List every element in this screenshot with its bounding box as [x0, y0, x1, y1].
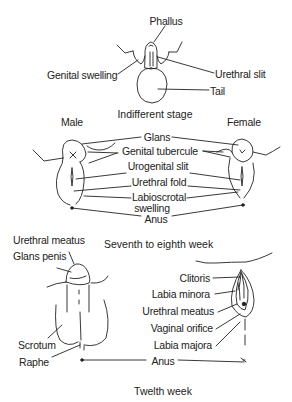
label-labia-minora: Labia minora — [152, 288, 210, 300]
label-labia-majora: Labia majora — [154, 339, 212, 351]
caption-seventh-eighth-week: Seventh to eighth week — [104, 238, 213, 250]
label-urethral-meatus-male: Urethral meatus — [13, 234, 85, 246]
caption-indifferent-stage: Indifferent stage — [117, 108, 192, 120]
label-tail: Tail — [210, 85, 225, 97]
label-urethral-fold: Urethral fold — [132, 176, 187, 188]
male-12-week-drawing — [47, 252, 108, 361]
male-7-8-week-drawing — [33, 140, 115, 209]
indifferent-stage-drawing — [117, 26, 214, 103]
label-phallus: Phallus — [149, 15, 182, 27]
female-7-8-week-drawing — [217, 139, 280, 206]
label-glans: Glans — [144, 131, 170, 143]
label-glans-penis: Glans penis — [13, 250, 66, 262]
label-urethral-slit: Urethral slit — [215, 68, 266, 80]
label-scrotum: Scrotum — [18, 339, 56, 351]
heading-male: Male — [61, 116, 83, 128]
label-clitoris: Clitoris — [180, 272, 211, 284]
label-urogenital-slit: Urogenital slit — [128, 160, 189, 172]
label-vaginal-orifice: Vaginal orifice — [151, 322, 213, 334]
label-anus-7-8: Anus — [144, 213, 167, 225]
heading-female: Female — [227, 116, 261, 128]
caption-twelfth-week: Twelth week — [134, 385, 192, 397]
label-urethral-meatus-female: Urethral meatus — [142, 305, 214, 317]
label-raphe: Raphe — [19, 356, 49, 368]
label-genital-swelling: Genital swelling — [47, 69, 117, 81]
label-genital-tubercule: Genital tubercule — [122, 145, 198, 157]
label-anus-12: Anus — [151, 355, 174, 367]
